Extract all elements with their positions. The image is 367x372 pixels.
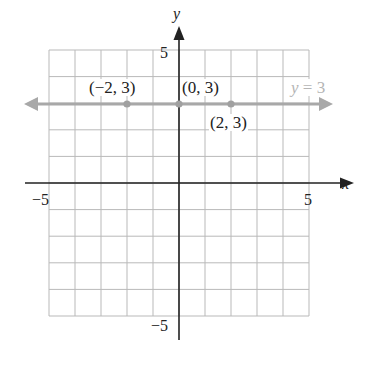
point-2-3: [227, 100, 234, 107]
coordinate-plane: y x 5 −5 −5 5 (−2, 3) (0, 3) (2, 3) y = …: [0, 0, 367, 372]
equation-label: y = 3: [290, 79, 326, 96]
y-tick-5: 5: [160, 45, 168, 61]
right-arrow-icon: [319, 97, 333, 111]
label-point-0-3: (0, 3): [181, 79, 220, 96]
left-arrow-icon: [24, 97, 38, 111]
y-tick-neg5: −5: [151, 318, 168, 334]
point-neg2-3: [123, 100, 130, 107]
x-tick-5: 5: [304, 192, 312, 208]
label-point-2-3: (2, 3): [209, 114, 248, 131]
label-point-neg2-3: (−2, 3): [88, 79, 136, 96]
y-axis-arrow-icon: [174, 26, 185, 40]
equation-rest: = 3: [299, 78, 326, 97]
x-axis-label: x: [342, 176, 349, 192]
y-axis-label: y: [173, 6, 180, 22]
graph-svg: [0, 0, 367, 372]
point-0-3: [175, 100, 182, 107]
axes: [25, 26, 354, 340]
x-tick-neg5: −5: [32, 192, 49, 208]
equation-variable: y: [291, 78, 299, 97]
